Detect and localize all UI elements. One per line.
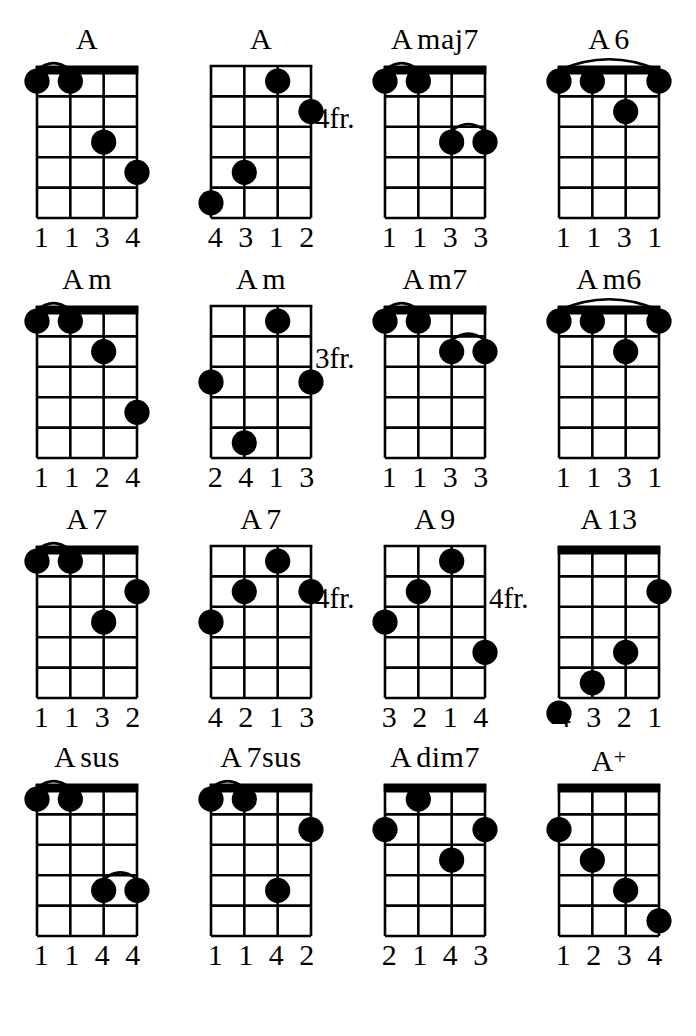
finger-dot [646,908,671,933]
finger-numbers: 1132 [26,701,148,733]
finger-numbers: 1131 [548,461,670,493]
finger-number: 3 [609,221,640,253]
fretboard-grid [359,520,511,724]
finger-dot [472,817,497,842]
finger-dot [546,817,571,842]
fretboard-grid [11,40,163,244]
finger-dot [91,129,116,154]
finger-number: 1 [405,221,436,253]
chord-diagram-asus[interactable]: Asus1144 [0,740,174,980]
finger-numbers: 2143 [374,939,496,971]
fretboard-grid [533,520,685,724]
finger-number: 4 [640,939,671,971]
finger-number: 1 [548,221,579,253]
fretboard-grid [359,40,511,244]
fretboard: 4fr. [385,546,485,698]
finger-number: 4 [118,221,149,253]
finger-numbers: 2413 [200,461,322,493]
finger-numbers: 4213 [200,701,322,733]
chord-chart-sheet: A1134A4fr.4312Amaj71133A61131Am1124Am3fr… [0,0,696,1036]
fretboard [559,66,659,218]
finger-number: 4 [200,221,231,253]
finger-number: 2 [87,461,118,493]
finger-dot [646,309,671,334]
finger-number: 1 [57,939,88,971]
finger-dot [198,369,223,394]
finger-dot [232,579,257,604]
finger-numbers: 1142 [200,939,322,971]
finger-number: 2 [579,939,610,971]
finger-dot [546,69,571,94]
fretboard [37,66,137,218]
fretboard [37,784,137,936]
fretboard-grid [11,758,163,962]
chord-row: A1134A4fr.4312Amaj71133A61131 [0,22,696,262]
finger-number: 3 [292,701,323,733]
chord-diagram-am6[interactable]: Am61131 [522,262,696,502]
chord-diagram-a-[interactable]: A+1234 [522,740,696,980]
finger-number: 1 [231,939,262,971]
chord-diagram-am[interactable]: Am3fr.2413 [174,262,348,502]
finger-number: 1 [261,461,292,493]
finger-dot [24,69,49,94]
finger-dot [580,69,605,94]
finger-number: 1 [579,461,610,493]
finger-dot [124,579,149,604]
chord-diagram-a6[interactable]: A61131 [522,22,696,262]
fretboard: 4fr. [211,546,311,698]
finger-number: 1 [200,939,231,971]
finger-number: 3 [435,221,466,253]
finger-dot [124,160,149,185]
finger-number: 4 [548,701,579,733]
finger-dot [439,549,464,574]
chord-diagram-amaj7[interactable]: Amaj71133 [348,22,522,262]
finger-number: 3 [609,461,640,493]
finger-dot [198,609,223,634]
finger-dot [265,878,290,903]
finger-number: 1 [26,939,57,971]
chord-diagram-a[interactable]: A4fr.4312 [174,22,348,262]
finger-dot [232,430,257,455]
finger-dot [24,787,49,812]
chord-diagram-am[interactable]: Am1124 [0,262,174,502]
fretboard-grid [11,280,163,484]
finger-number: 2 [374,939,405,971]
finger-dot [406,69,431,94]
finger-dot [613,878,638,903]
finger-number: 1 [405,461,436,493]
chord-diagram-a7sus[interactable]: A7sus1142 [174,740,348,980]
finger-dot [646,69,671,94]
finger-dot [124,400,149,425]
finger-dot [58,787,83,812]
chord-diagram-a13[interactable]: A134321 [522,502,696,742]
finger-dot [546,309,571,334]
finger-numbers: 1133 [374,221,496,253]
fretboard-grid [359,280,511,484]
finger-numbers: 1134 [26,221,148,253]
chord-diagram-a7[interactable]: A71132 [0,502,174,742]
finger-dot [406,787,431,812]
finger-number: 1 [548,461,579,493]
fretboard [559,306,659,458]
fretboard-grid [533,40,685,244]
chord-diagram-a9[interactable]: A94fr.3214 [348,502,522,742]
finger-number: 1 [640,221,671,253]
chord-diagram-a[interactable]: A1134 [0,22,174,262]
finger-dot [58,549,83,574]
finger-dot [613,339,638,364]
finger-dot [198,787,223,812]
fretboard [37,306,137,458]
finger-number: 3 [466,221,497,253]
finger-dot [232,160,257,185]
finger-number: 1 [26,701,57,733]
chord-diagram-am7[interactable]: Am71133 [348,262,522,502]
finger-dot [439,129,464,154]
chord-diagram-adim7[interactable]: Adim72143 [348,740,522,980]
finger-numbers: 1133 [374,461,496,493]
finger-dot [58,309,83,334]
finger-dot [406,579,431,604]
chord-diagram-a7[interactable]: A74fr.4213 [174,502,348,742]
finger-number: 4 [466,701,497,733]
finger-dot [439,847,464,872]
finger-number: 2 [292,221,323,253]
